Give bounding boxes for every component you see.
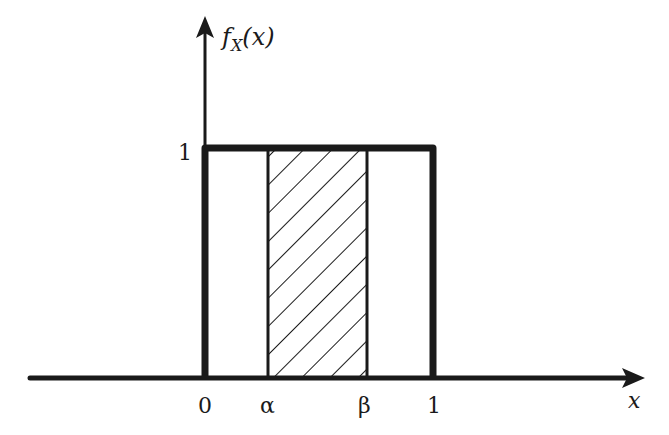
x-axis-label: x [628,388,641,413]
shaded-probability-region [268,149,367,378]
x-tick-alpha: α [260,393,275,418]
y-axis-label: fX(x) [220,23,275,55]
uniform-density-diagram: fX(x) 1 0 α β 1 x [0,0,669,435]
x-tick-zero: 0 [198,393,212,418]
x-tick-beta: β [358,393,371,418]
y-tick-one: 1 [178,140,192,165]
x-tick-one: 1 [427,393,441,418]
